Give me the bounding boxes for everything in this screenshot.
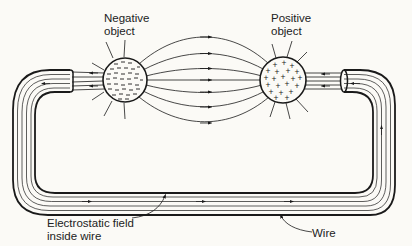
field-lines-wire-to-positive — [305, 73, 341, 89]
field-lines-negative-to-wire — [72, 72, 104, 90]
svg-text:+: + — [295, 81, 300, 91]
wire-label-leader — [281, 216, 312, 232]
field-inside-wire-label: Electrostatic field inside wire — [47, 217, 134, 243]
wire-label: Wire — [312, 227, 336, 240]
wire-field-arrows — [43, 84, 382, 202]
svg-text:+: + — [285, 93, 290, 103]
svg-text:+: + — [279, 88, 284, 98]
negative-object — [103, 58, 147, 102]
positive-object: +++ ++++ +++++ ++++ +++ ++ — [260, 57, 306, 103]
positive-object-label: Positive object — [271, 12, 311, 38]
wire-end-right — [341, 70, 348, 92]
wire-end-left — [70, 70, 73, 92]
svg-text:+: + — [274, 93, 279, 103]
diagram-canvas: +++ ++++ +++++ ++++ +++ ++ — [0, 0, 412, 246]
field-lines-between-objects — [139, 37, 269, 123]
negative-object-label: Negative object — [104, 12, 149, 38]
